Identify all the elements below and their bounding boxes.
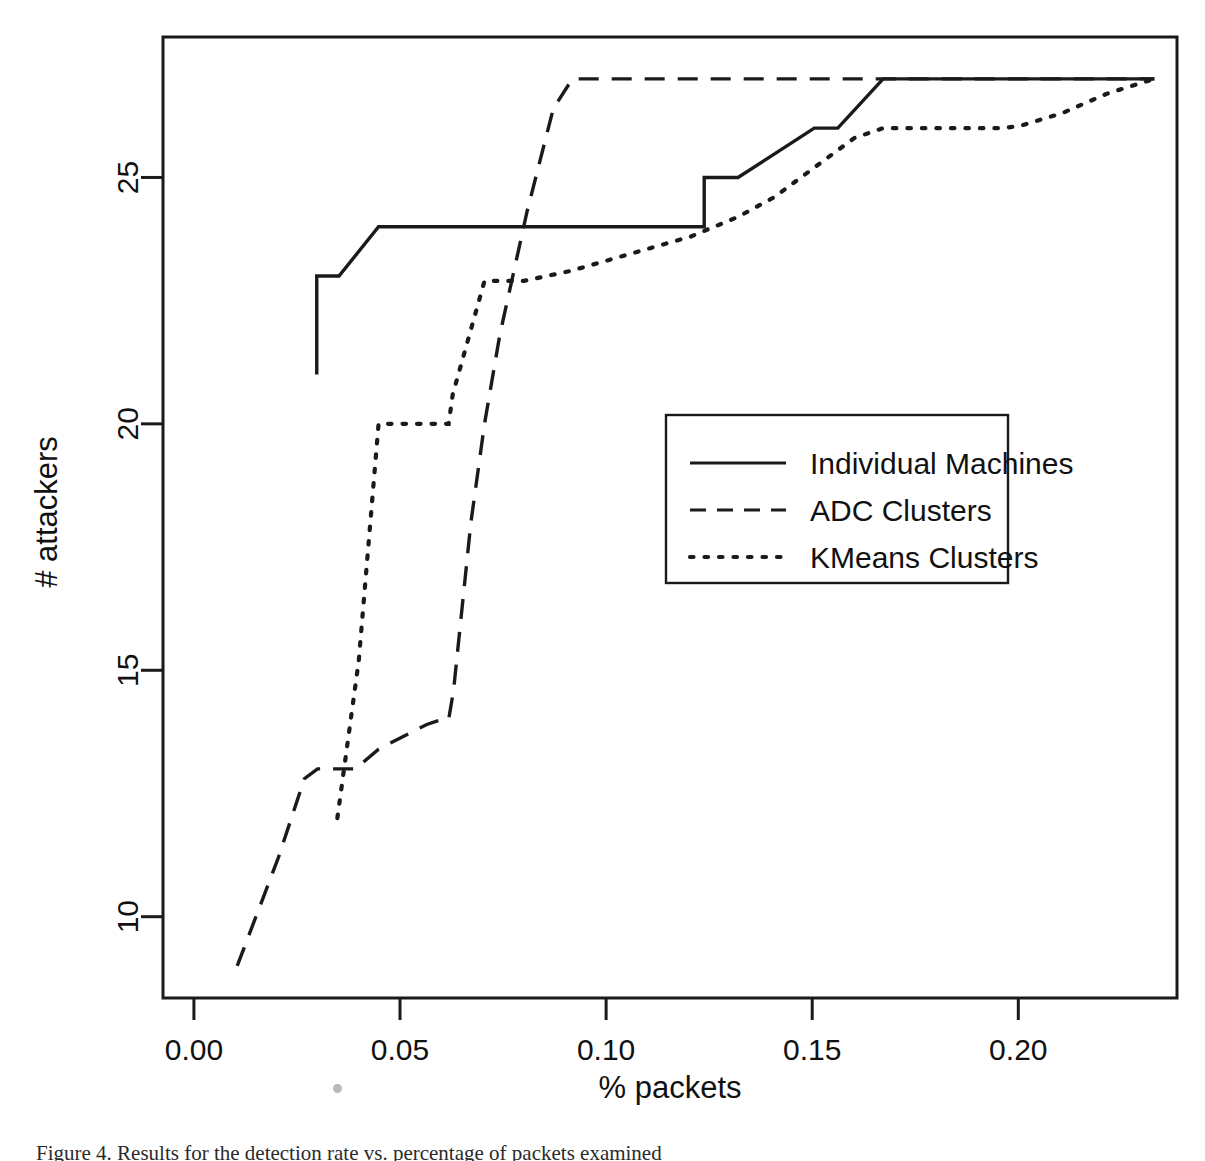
figure-container: 0.000.050.100.150.20 10152025 % packets …: [0, 0, 1205, 1161]
y-axis-title: # attackers: [29, 436, 64, 588]
series-line-individual-machines: [317, 79, 1155, 375]
x-axis-tick-labels: 0.000.050.100.150.20: [165, 1033, 1048, 1066]
y-tick-label: 20: [111, 407, 144, 440]
x-tick-label: 0.10: [577, 1033, 635, 1066]
chart-legend: Individual MachinesADC ClustersKMeans Cl…: [666, 415, 1073, 583]
legend-label-individual-machines: Individual Machines: [810, 447, 1073, 480]
y-tick-label: 10: [111, 900, 144, 933]
y-axis-ticks: [141, 177, 163, 916]
y-tick-label: 15: [111, 654, 144, 687]
y-tick-label: 25: [111, 161, 144, 194]
x-tick-label: 0.15: [783, 1033, 841, 1066]
chart-canvas: 0.000.050.100.150.20 10152025 % packets …: [0, 0, 1205, 1161]
scan-artifact-speck: [333, 1084, 342, 1093]
x-tick-label: 0.05: [371, 1033, 429, 1066]
y-axis-tick-labels: 10152025: [111, 161, 144, 934]
x-tick-label: 0.20: [989, 1033, 1047, 1066]
figure-caption: Figure 4. Results for the detection rate…: [36, 1138, 1136, 1161]
x-tick-label: 0.00: [165, 1033, 223, 1066]
legend-label-adc-clusters: ADC Clusters: [810, 494, 992, 527]
legend-label-kmeans-clusters: KMeans Clusters: [810, 541, 1038, 574]
x-axis-title: % packets: [598, 1070, 741, 1105]
x-axis-ticks: [194, 998, 1018, 1020]
